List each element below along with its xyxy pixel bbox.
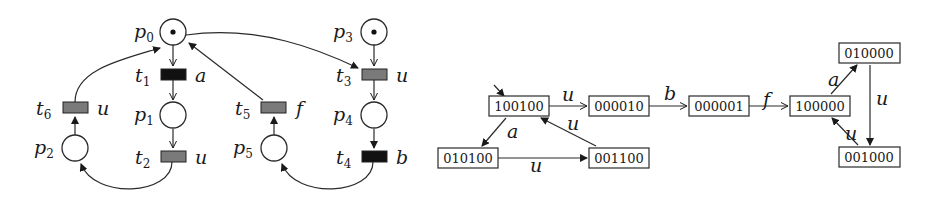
edge-label: u: [530, 154, 542, 176]
place-p0: p0: [134, 19, 186, 45]
svg-text:t5: t5: [235, 97, 250, 122]
place-label: p2: [34, 136, 54, 161]
svg-text:001000: 001000: [844, 150, 894, 165]
place-label: p4: [333, 103, 353, 128]
arc-t2-p2: [81, 162, 172, 189]
transition-action-label: b: [396, 146, 408, 168]
edge-label: a: [828, 68, 839, 90]
transition-action-label: u: [396, 64, 408, 86]
place-label: p1: [134, 103, 154, 128]
edge-label: f: [761, 88, 773, 110]
svg-text:000010: 000010: [594, 99, 644, 114]
svg-text:001100: 001100: [594, 151, 644, 166]
edge-label: b: [664, 82, 676, 104]
transition-action-label: u: [195, 146, 207, 168]
svg-text:100100: 100100: [494, 99, 544, 114]
svg-text:t2: t2: [135, 146, 150, 171]
state-100000: 100000: [790, 96, 850, 116]
token-dot: [170, 29, 175, 34]
place-p1: p1: [134, 102, 186, 128]
edge-label: u: [567, 112, 579, 134]
place-p2: p2: [34, 135, 88, 161]
transition-t1: t1 a: [135, 64, 206, 89]
svg-text:t6: t6: [36, 97, 51, 122]
place-label: p5: [233, 136, 253, 161]
transition-action-label: u: [97, 97, 109, 119]
transition-t3: t3 u: [336, 64, 408, 89]
place-p4: p4: [333, 102, 387, 128]
transition-t5: t5 f: [235, 97, 306, 122]
state-001100: 001100: [589, 148, 649, 168]
edge-label: a: [507, 120, 518, 142]
edge-100100-010100: [482, 118, 506, 146]
state-010100: 010100: [438, 148, 498, 168]
token-dot: [371, 29, 376, 34]
state-000010: 000010: [589, 96, 649, 116]
svg-text:010000: 010000: [844, 46, 894, 61]
state-001000: 001000: [839, 147, 900, 167]
arc-t4-p5: [282, 162, 373, 189]
transition-action-label: a: [195, 64, 206, 86]
edge-label: u: [876, 87, 888, 109]
svg-text:t3: t3: [336, 64, 351, 89]
diagram-canvas: p0 p1 p2 p3 p4 p5 t1 a: [0, 0, 938, 199]
place-label: p0: [134, 20, 154, 45]
place-label: p3: [333, 20, 353, 45]
edge-label: u: [845, 122, 857, 144]
state-100100: 100100: [489, 96, 549, 116]
state-010000: 010000: [839, 43, 900, 63]
place-p5: p5: [233, 135, 287, 161]
svg-text:100000: 100000: [795, 99, 845, 114]
svg-text:t1: t1: [135, 64, 150, 89]
transition-t6: t6 u: [36, 97, 109, 122]
state-000001: 000001: [689, 96, 749, 116]
initial-state-arrow: [494, 85, 504, 96]
svg-text:010100: 010100: [443, 151, 493, 166]
petri-net: p0 p1 p2 p3 p4 p5 t1 a: [34, 19, 408, 189]
place-p3: p3: [333, 19, 387, 45]
svg-text:t4: t4: [336, 146, 352, 171]
transition-action-label: f: [294, 97, 306, 119]
svg-text:000001: 000001: [694, 99, 744, 114]
edge-label: u: [562, 83, 574, 105]
reachability-graph: u b f a u u a u u 100100 000010 000001 1…: [438, 43, 900, 176]
